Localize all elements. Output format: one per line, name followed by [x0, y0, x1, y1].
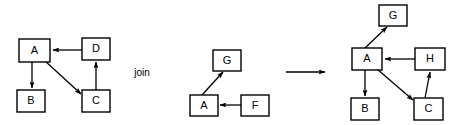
node-label: G [223, 54, 232, 66]
edge-A-to-C [377, 69, 413, 100]
node-H-result: H [415, 48, 445, 70]
node-label: F [252, 99, 259, 111]
node-label: A [200, 99, 208, 111]
right-operand-graph: G A F [190, 50, 269, 116]
node-label: B [27, 94, 34, 106]
join-operator-label: join [133, 67, 150, 78]
node-F-middle: F [241, 95, 269, 116]
node-A-middle: A [190, 95, 218, 116]
node-label: C [92, 94, 100, 106]
node-C-result: C [414, 98, 443, 120]
node-G-middle: G [213, 50, 241, 71]
node-D-left: D [82, 38, 110, 60]
node-label: C [425, 102, 433, 114]
node-label: A [363, 52, 371, 64]
edge-C-to-H [425, 72, 430, 98]
node-label: A [31, 44, 39, 56]
node-B-left: B [17, 90, 45, 112]
node-label: D [92, 42, 100, 54]
graph-join-diagram: A D B C join [0, 0, 463, 125]
edge-A-to-C [44, 60, 81, 94]
node-label: B [361, 102, 368, 114]
edge-A-to-G [202, 72, 223, 95]
result-graph: G A H B C [351, 5, 445, 120]
diagram-canvas: A D B C join [0, 0, 463, 125]
left-operand-graph: A D B C [17, 38, 110, 112]
node-B-result: B [351, 98, 379, 120]
node-A-left: A [19, 39, 50, 62]
node-A-result: A [352, 48, 382, 70]
node-C-left: C [82, 90, 110, 112]
node-label: H [426, 52, 434, 64]
edge-A-to-G [365, 27, 387, 48]
node-label: G [389, 9, 398, 21]
node-G-result: G [379, 5, 407, 26]
